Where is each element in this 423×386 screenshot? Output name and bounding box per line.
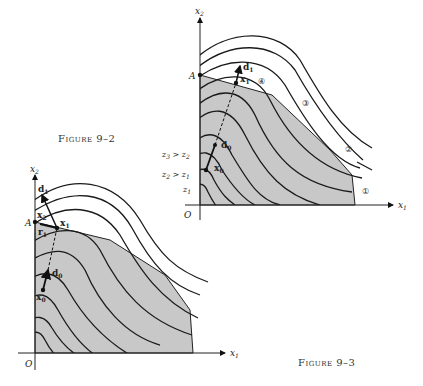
x1-axis-label: x1 [398,200,407,211]
level-label-z1: z1 [182,185,191,195]
point-A [198,73,202,77]
caption-figure-9-2: Figure 9–2 [58,133,115,144]
label-A: A [24,218,32,228]
circled-label-4: ④ [258,77,265,86]
x2-axis-label: x2 [30,164,39,175]
circled-label-3: ③ [302,99,309,108]
figure-9-2: x2 x1 O A x0 d0 x1 d1 z3 > z2 z2 > z1 z1… [161,6,407,220]
x1-axis-label: x1 [230,348,239,359]
label-x2: x2 [37,210,47,221]
level-label-z3: z3 > z2 [161,150,190,160]
label-x1: x1 [60,218,70,229]
origin-label: O [184,210,192,220]
level-label-z2: z2 > z1 [161,170,190,180]
feasible-region [35,222,193,353]
caption-figure-9-3: Figure 9–3 [298,357,355,368]
label-d1: d1 [243,62,253,73]
origin-label: O [25,359,33,369]
x2-axis-label: x2 [195,6,204,17]
circled-label-2: ② [345,145,352,154]
circled-label-1: ① [362,187,369,196]
label-A: A [188,71,196,81]
diagram-canvas: x2 x1 O A x0 d0 x1 d1 z3 > z2 z2 > z1 z1… [0,0,423,386]
label-x1: x1 [240,74,250,85]
label-d1: d1 [38,184,48,195]
point-A [33,220,37,224]
